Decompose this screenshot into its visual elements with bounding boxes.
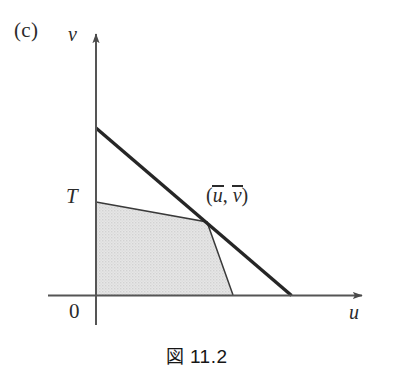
overbar-v bbox=[232, 185, 243, 187]
caption-prefix: 図 bbox=[166, 346, 185, 367]
plot-canvas bbox=[0, 0, 394, 369]
v-bar-symbol: v bbox=[233, 184, 242, 205]
caption-number: 11.2 bbox=[190, 346, 228, 367]
optimum-point-label: (u, v) bbox=[206, 184, 248, 205]
feasible-region-shading bbox=[96, 202, 233, 295]
close-paren: ) bbox=[242, 184, 249, 206]
u-bar-symbol: u bbox=[213, 184, 223, 205]
x-axis-label: u bbox=[349, 302, 359, 322]
y-intercept-tick-label-t: T bbox=[66, 186, 78, 207]
panel-label: (c) bbox=[14, 20, 38, 41]
origin-label: 0 bbox=[69, 301, 80, 322]
label-comma: , bbox=[223, 184, 228, 206]
figure-caption: 図11.2 bbox=[0, 342, 394, 368]
figure-container: (c) v u T 0 (u, v) 図11.2 bbox=[0, 0, 394, 369]
open-paren: ( bbox=[206, 184, 213, 206]
overbar-u bbox=[212, 185, 224, 187]
y-axis-label: v bbox=[68, 24, 77, 44]
